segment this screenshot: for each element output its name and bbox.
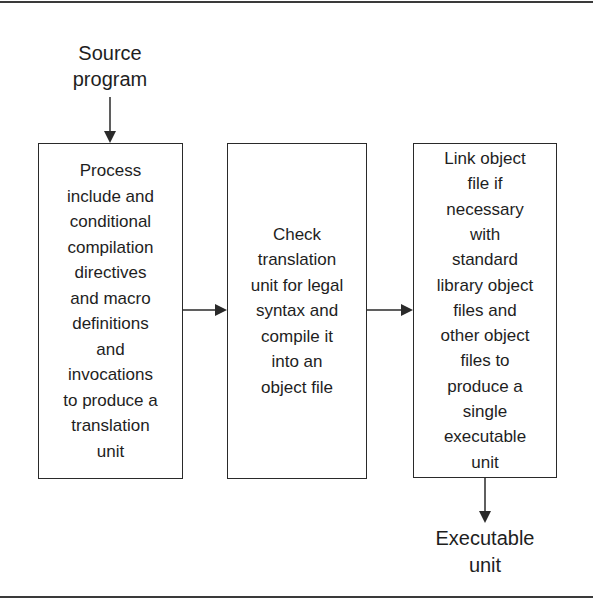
arrow-compile-to-link: [367, 304, 413, 316]
bottom-rule: [0, 596, 593, 598]
arrow-preprocess-to-compile: [183, 304, 227, 316]
arrow-link-to-output: [479, 478, 491, 523]
arrows-layer: [0, 0, 593, 607]
arrow-source-to-preprocess: [104, 97, 116, 143]
